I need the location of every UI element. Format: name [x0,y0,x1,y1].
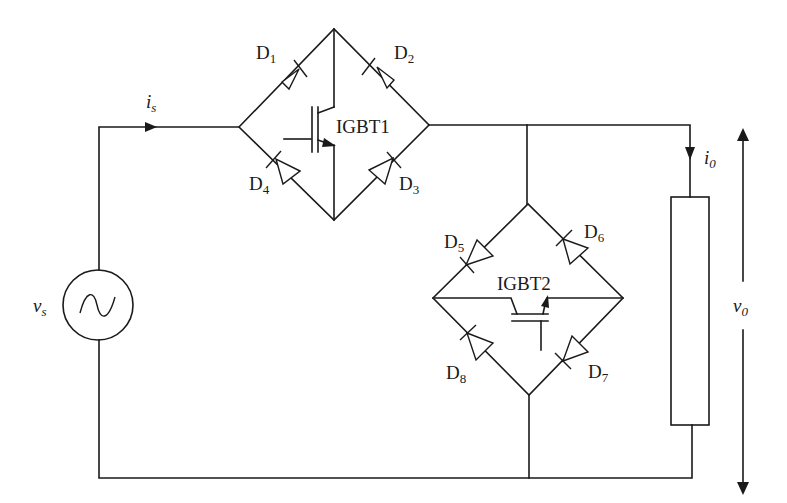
diode-d5-icon [460,240,493,273]
diode-d7-label: D7 [588,362,608,384]
circuit-svg [0,0,787,503]
diode-d5-label: D5 [444,232,464,254]
load-current-arrow-icon [685,147,695,160]
source-top-wire [99,127,239,270]
diode-d1-label: D1 [256,43,276,65]
bottom-return-wire [99,340,692,478]
igbt2-icon [433,295,623,350]
igbt2-label: IGBT2 [497,274,551,293]
diode-d2-label: D2 [394,43,414,65]
diode-d6-label: D6 [584,222,604,244]
output-top-wire [429,125,690,197]
load-current-label: i0 [704,148,716,170]
diode-d1-icon [282,60,307,89]
source-voltage-label: vs [33,296,47,318]
wires [99,125,692,478]
diode-d4-icon [266,151,300,184]
circuit-diagram: is vs D1 D2 D3 D4 IGBT1 D5 D6 D7 D8 IGBT… [0,0,787,503]
resistor-icon [671,197,709,425]
diode-d4-label: D4 [249,174,269,196]
igbt1-label: IGBT1 [336,117,390,136]
output-voltage-label: v0 [733,296,748,318]
source-current-arrow-icon [145,122,157,132]
diode-d3-label: D3 [399,174,419,196]
igbt1-icon [284,29,336,220]
ac-sine-source-icon [63,270,133,340]
diode-d8-label: D8 [446,363,466,385]
source-current-label: is [146,92,156,114]
